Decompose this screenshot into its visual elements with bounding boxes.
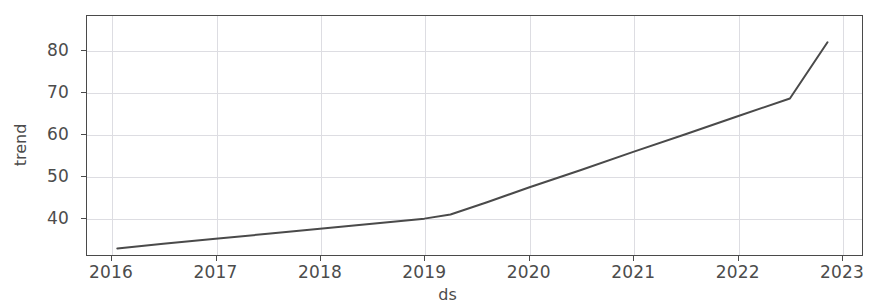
x-tick-mark <box>842 256 843 261</box>
y-tick-label: 40 <box>47 208 69 228</box>
y-tick-mark <box>81 92 86 93</box>
y-gridline <box>87 135 862 136</box>
y-tick-mark <box>81 176 86 177</box>
y-tick-label: 60 <box>47 124 69 144</box>
y-tick-label: 50 <box>47 166 69 186</box>
x-tick-label: 2017 <box>193 262 237 282</box>
x-tick-label: 2019 <box>402 262 446 282</box>
y-tick-mark <box>81 218 86 219</box>
x-tick-mark <box>738 256 739 261</box>
y-gridline <box>87 93 862 94</box>
x-axis-label: ds <box>0 285 895 304</box>
x-tick-label: 2022 <box>716 262 760 282</box>
x-tick-label: 2023 <box>820 262 864 282</box>
y-gridline <box>87 219 862 220</box>
y-gridline <box>87 51 862 52</box>
x-tick-mark <box>633 256 634 261</box>
x-tick-mark <box>111 256 112 261</box>
x-tick-mark <box>320 256 321 261</box>
x-tick-label: 2021 <box>611 262 655 282</box>
y-tick-mark <box>81 50 86 51</box>
x-tick-label: 2016 <box>89 262 133 282</box>
x-tick-label: 2018 <box>298 262 342 282</box>
y-gridline <box>87 177 862 178</box>
y-axis-label: trend <box>11 124 30 167</box>
y-tick-label: 70 <box>47 82 69 102</box>
x-tick-mark <box>529 256 530 261</box>
x-tick-mark <box>216 256 217 261</box>
plot-area <box>86 15 863 256</box>
x-tick-label: 2020 <box>507 262 551 282</box>
x-tick-mark <box>424 256 425 261</box>
trend-chart-figure: 20162017201820192020202120222023 4050607… <box>0 0 895 308</box>
y-tick-label: 80 <box>47 40 69 60</box>
y-tick-mark <box>81 134 86 135</box>
